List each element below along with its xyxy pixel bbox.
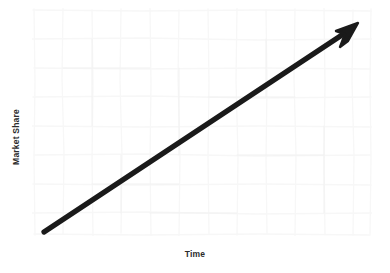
chart-canvas: Market Share Time [0,0,390,273]
trend-arrow-icon [44,23,358,232]
growth-arrow-plot [0,0,390,273]
x-axis-label: Time [0,249,390,259]
